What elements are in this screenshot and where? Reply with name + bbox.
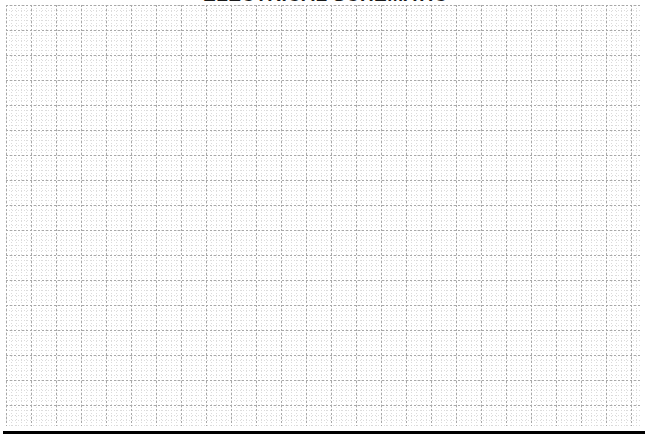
grid-minor-horizontal-lines bbox=[6, 5, 640, 426]
grid-major-horizontal-lines bbox=[6, 5, 640, 426]
drawing-grid[interactable] bbox=[6, 5, 640, 426]
page-title: ELECTRICAL SCHEMATIC bbox=[0, 0, 651, 4]
grid-minor-vertical-lines bbox=[6, 5, 640, 426]
schematic-page: ELECTRICAL SCHEMATIC bbox=[0, 0, 651, 441]
bottom-border-rule bbox=[3, 431, 645, 434]
grid-major-vertical-lines bbox=[6, 5, 640, 426]
